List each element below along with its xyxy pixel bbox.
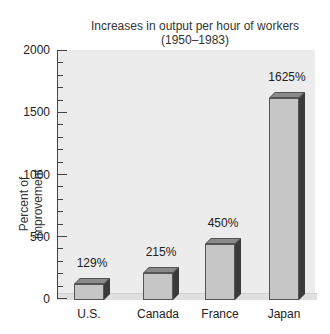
bar-front xyxy=(74,284,104,300)
y-tick xyxy=(57,224,63,225)
x-category-label: Canada xyxy=(128,307,188,321)
bar-japan xyxy=(269,98,305,300)
y-tick xyxy=(57,199,63,200)
y-tick xyxy=(57,186,63,187)
y-tick-label: 500 xyxy=(10,230,50,244)
y-tick xyxy=(57,137,63,138)
x-category-label: U.S. xyxy=(59,307,119,321)
y-tick xyxy=(57,236,67,237)
bar-us xyxy=(74,284,110,300)
value-label: 129% xyxy=(62,256,122,270)
y-tick xyxy=(57,211,63,212)
y-tick xyxy=(57,286,63,287)
y-tick xyxy=(57,75,63,76)
bar-side xyxy=(299,92,305,300)
bar-front xyxy=(205,244,235,300)
y-tick xyxy=(57,162,63,163)
y-tick-label: 1500 xyxy=(10,105,50,119)
y-tick xyxy=(57,100,63,101)
y-tick xyxy=(57,62,63,63)
y-tick xyxy=(57,87,63,88)
y-tick xyxy=(57,273,63,274)
bar-side xyxy=(235,238,241,300)
y-tick xyxy=(57,112,67,113)
value-label: 1625% xyxy=(257,70,317,84)
y-tick xyxy=(57,248,63,249)
chart-title-line1: Increases in output per hour of workers xyxy=(60,19,330,33)
x-category-label: France xyxy=(190,307,250,321)
bar-canada xyxy=(143,273,179,300)
value-label: 450% xyxy=(193,216,253,230)
y-tick xyxy=(57,174,67,175)
y-tick-label: 2000 xyxy=(10,43,50,57)
bar-front xyxy=(269,98,299,300)
value-label: 215% xyxy=(131,245,191,259)
bar-front xyxy=(143,273,173,300)
x-axis-baseline xyxy=(57,298,67,299)
y-tick-label: 0 xyxy=(10,292,50,306)
y-tick xyxy=(57,50,67,51)
x-category-label: Japan xyxy=(254,307,314,321)
bar-side xyxy=(173,267,179,300)
bar-france xyxy=(205,244,241,300)
y-tick xyxy=(57,124,63,125)
chart-subtitle: (1950–1983) xyxy=(60,33,330,47)
bar-side xyxy=(104,278,110,300)
y-tick xyxy=(57,149,63,150)
y-tick-label: 1000 xyxy=(10,168,50,182)
